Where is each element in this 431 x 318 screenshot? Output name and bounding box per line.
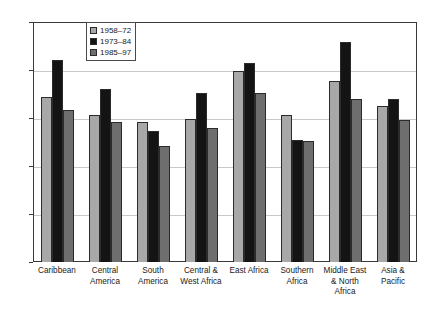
bar-group [137, 22, 170, 262]
legend-item: 1958–72 [90, 25, 131, 36]
bar [63, 110, 74, 262]
bar-group [281, 22, 314, 262]
bar [281, 115, 292, 262]
legend-item: 1985–97 [90, 47, 131, 58]
legend-item: 1973–84 [90, 36, 131, 47]
bar-chart: 0%5%10%15%20%25% CaribbeanCentral Americ… [0, 0, 431, 318]
bar [233, 71, 244, 262]
bar [340, 42, 351, 262]
bar [351, 99, 362, 262]
bar-group [185, 22, 218, 262]
bar [399, 120, 410, 262]
x-axis-category-label: Southern Africa [273, 266, 321, 287]
bar [185, 119, 196, 262]
bar-group [329, 22, 362, 262]
legend-swatch-icon [90, 27, 97, 34]
bar [388, 99, 399, 262]
bar [159, 146, 170, 262]
legend-swatch-icon [90, 49, 97, 56]
bar [89, 115, 100, 262]
bar [292, 140, 303, 262]
bar [111, 122, 122, 262]
bar [255, 93, 266, 262]
legend-label: 1958–72 [100, 27, 131, 35]
x-axis-category-label: Caribbean [33, 266, 81, 277]
bar-group [41, 22, 74, 262]
legend-label: 1985–97 [100, 49, 131, 57]
bar [196, 93, 207, 262]
x-axis-category-label: Central & West Africa [177, 266, 225, 287]
bar [52, 60, 63, 262]
bar [329, 81, 340, 262]
bar [148, 131, 159, 262]
bar-group [377, 22, 410, 262]
legend-label: 1973–84 [100, 38, 131, 46]
x-axis-category-label: Asia & Pacific [369, 266, 417, 287]
bar [100, 89, 111, 262]
x-axis-category-label: East Africa [225, 266, 273, 277]
x-axis-category-label: Central America [81, 266, 129, 287]
legend-swatch-icon [90, 38, 97, 45]
bar-group [233, 22, 266, 262]
bar [137, 122, 148, 262]
bar [207, 128, 218, 262]
bar [244, 63, 255, 262]
x-axis-category-label: South America [129, 266, 177, 287]
bar [377, 106, 388, 262]
x-axis-category-label: Middle East & North Africa [321, 266, 369, 298]
bar [303, 141, 314, 262]
legend: 1958–721973–841985–97 [86, 22, 136, 61]
bar [41, 97, 52, 262]
y-axis-tick-mark [29, 262, 33, 263]
